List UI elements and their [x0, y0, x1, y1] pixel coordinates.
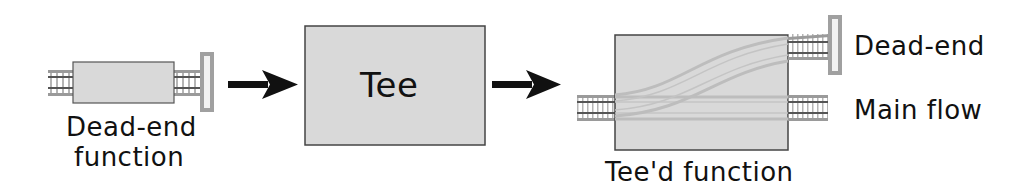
- branch-label-main-flow: Main flow: [854, 95, 982, 125]
- branching-track-icon: [577, 15, 842, 150]
- arrow-right-icon: [492, 70, 561, 99]
- teed-function-caption: Tee'd function: [605, 157, 794, 187]
- branch-label-dead-end: Dead-end: [854, 31, 985, 61]
- dead-end-caption-line1: Dead-end: [66, 112, 197, 142]
- dead-end-caption-line2: function: [74, 142, 184, 172]
- dead-end-track-icon: [48, 52, 214, 112]
- arrow-right-icon: [228, 70, 298, 99]
- tee-box-label: Tee: [360, 65, 418, 105]
